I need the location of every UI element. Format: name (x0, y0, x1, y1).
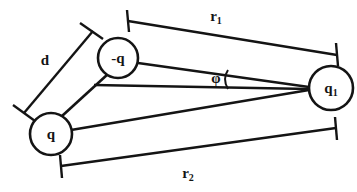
r2-label-sub: 2 (189, 172, 194, 183)
r1-label: r1 (210, 8, 222, 26)
d-dimension-line (24, 31, 93, 113)
r2-dimension-line (61, 128, 336, 166)
r1-tick-right (336, 43, 338, 66)
r2-tick-right (335, 117, 337, 140)
negative-charge-label: -q (111, 50, 125, 66)
angle-phi-arc (225, 70, 228, 89)
d-tick-bottom (13, 105, 35, 121)
line-q-to-q1 (71, 90, 309, 130)
r1-label-sub: 1 (217, 15, 222, 26)
horizontal-reference-line (94, 85, 309, 89)
dimension-d (13, 23, 103, 121)
line-negq-to-q1 (138, 63, 309, 87)
r2-label: r2 (182, 165, 194, 183)
angle-phi-label: φ (211, 70, 220, 86)
dipole-axis-line (62, 74, 108, 116)
r2-tick-left (60, 155, 62, 178)
r1-tick-left (127, 10, 129, 32)
d-tick-top (80, 23, 103, 39)
d-label: d (41, 52, 50, 68)
r1-dimension-line (128, 21, 337, 55)
dimension-r1 (127, 10, 338, 66)
diagram-canvas: -q q q1 r1 r2 d φ (0, 0, 357, 192)
test-charge-label-sub: 1 (333, 87, 338, 98)
positive-charge-label: q (47, 126, 56, 142)
dipole-diagram: -q q q1 r1 r2 d φ (0, 0, 357, 192)
